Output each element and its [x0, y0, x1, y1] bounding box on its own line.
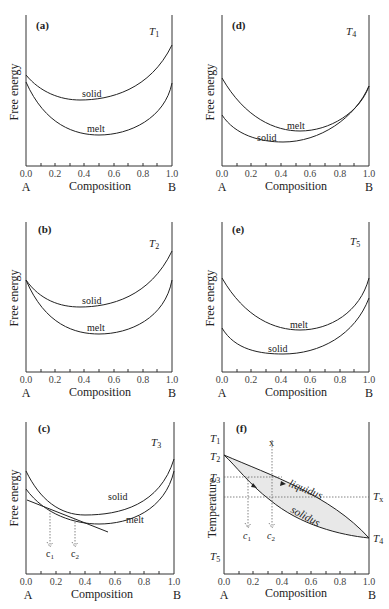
panel-label: (c): [38, 422, 51, 435]
svg-text:1.0: 1.0: [166, 374, 179, 385]
svg-text:0.0: 0.0: [20, 374, 33, 385]
svg-text:0.8: 0.8: [334, 168, 347, 179]
panel-label: (d): [232, 19, 246, 32]
x-axis-label: Composition: [69, 179, 131, 193]
svg-text:0.4: 0.4: [79, 576, 92, 587]
svg-text:B: B: [365, 386, 373, 400]
temperature-label: T5: [350, 235, 360, 249]
svg-text:0.2: 0.2: [50, 576, 63, 587]
svg-text:0.2: 0.2: [245, 374, 258, 385]
common-tangent-line: [27, 500, 108, 532]
svg-text:0.2: 0.2: [247, 576, 260, 587]
melt-label: melt: [126, 514, 144, 525]
svg-text:B: B: [168, 180, 176, 194]
melt-label: melt: [290, 319, 308, 330]
svg-text:0.4: 0.4: [275, 168, 288, 179]
svg-text:1.0: 1.0: [363, 576, 376, 587]
figure: (a) T1 solid melt Free energy 0.00.20.40…: [0, 0, 389, 609]
svg-text:0.2: 0.2: [245, 168, 258, 179]
solid-label: solid: [257, 132, 276, 143]
c1-marker: c1: [243, 530, 251, 543]
x-marker: x: [269, 437, 274, 448]
svg-text:0.0: 0.0: [218, 576, 231, 587]
svg-text:0.2: 0.2: [49, 374, 62, 385]
panel-label: (f): [236, 422, 247, 435]
x-axis-label: Composition: [71, 587, 133, 601]
svg-text:A: A: [24, 588, 33, 602]
svg-text:B: B: [168, 386, 176, 400]
x-axis-label: Composition: [69, 385, 131, 399]
svg-text:B: B: [173, 588, 181, 602]
two-phase-region: [224, 455, 369, 538]
solid-label: solid: [268, 343, 287, 354]
solid-label: solid: [82, 295, 101, 306]
svg-text:A: A: [22, 180, 31, 194]
svg-text:0.8: 0.8: [138, 576, 151, 587]
solid-curve: [222, 86, 369, 142]
t4-label: T4: [373, 532, 383, 546]
svg-text:0.6: 0.6: [304, 168, 317, 179]
svg-text:A: A: [218, 180, 227, 194]
svg-text:1.0: 1.0: [363, 374, 376, 385]
solid-label: solid: [108, 491, 127, 502]
svg-text:0.0: 0.0: [20, 576, 33, 587]
melt-label: melt: [87, 123, 105, 134]
svg-text:0.6: 0.6: [304, 374, 317, 385]
y-axis-label: Free energy: [203, 270, 217, 327]
panel-d: (d) T4 melt solid Free energy 0.00.20.40…: [203, 15, 375, 194]
panel-label: (e): [232, 223, 245, 236]
svg-text:0.4: 0.4: [275, 374, 288, 385]
svg-text:B: B: [365, 180, 373, 194]
x-axis-label: Composition: [265, 385, 327, 399]
panel-a: (a) T1 solid melt Free energy 0.00.20.40…: [7, 15, 178, 194]
temperature-label: T1: [149, 25, 159, 39]
svg-text:0.8: 0.8: [137, 168, 150, 179]
temperature-label: T4: [346, 25, 356, 39]
x-axis-label: Composition: [265, 586, 327, 600]
temperature-label: T2: [149, 237, 159, 251]
svg-text:0.4: 0.4: [78, 168, 91, 179]
svg-text:0.6: 0.6: [108, 168, 121, 179]
svg-text:0.2: 0.2: [49, 168, 62, 179]
solid-label: solid: [82, 88, 101, 99]
t2-label: T2: [210, 450, 220, 464]
melt-label: melt: [87, 322, 105, 333]
melt-label: melt: [287, 120, 305, 131]
melt-curve: [26, 471, 174, 524]
svg-text:0.8: 0.8: [137, 374, 150, 385]
tx-label: Tx: [373, 490, 383, 504]
svg-text:0.6: 0.6: [109, 576, 122, 587]
t1-label: T1: [210, 432, 220, 446]
c2-marker: c2: [71, 548, 79, 561]
c2-marker: c2: [267, 530, 275, 543]
svg-text:0.0: 0.0: [20, 168, 33, 179]
panel-f: (f) x liquidus solidus c1 c2 T1 T2 T3 T5…: [205, 422, 383, 602]
svg-text:A: A: [22, 386, 31, 400]
y-axis-label: Free energy: [7, 470, 21, 527]
y-axis-label: Free energy: [7, 270, 21, 327]
panel-label: (a): [36, 19, 49, 32]
panel-b: (b) T2 solid melt Free energy 0.00.20.40…: [7, 222, 178, 400]
temperature-label: T3: [151, 436, 161, 450]
y-axis-label: Free energy: [7, 64, 21, 121]
panel-e: (e) T5 melt solid Free energy 0.00.20.40…: [203, 222, 375, 400]
svg-text:0.6: 0.6: [108, 374, 121, 385]
svg-text:A: A: [218, 386, 227, 400]
panel-label: (b): [38, 223, 52, 236]
c1-marker: c1: [46, 548, 54, 561]
t5-label: T5: [210, 550, 220, 564]
y-axis-label: Temperature: [205, 478, 219, 538]
panel-c: (c) T3 solid melt c1 c2 Free energy 0.00…: [7, 422, 181, 602]
svg-text:0.0: 0.0: [216, 374, 229, 385]
svg-text:0.8: 0.8: [334, 374, 347, 385]
svg-text:1.0: 1.0: [166, 168, 179, 179]
x-axis-label: Composition: [265, 179, 327, 193]
svg-text:0.8: 0.8: [334, 576, 347, 587]
svg-text:1.0: 1.0: [363, 168, 376, 179]
svg-text:1.0: 1.0: [168, 576, 181, 587]
svg-text:0.4: 0.4: [78, 374, 91, 385]
svg-text:A: A: [220, 588, 229, 602]
svg-text:B: B: [368, 588, 376, 602]
svg-text:0.0: 0.0: [216, 168, 229, 179]
y-axis-label: Free energy: [203, 64, 217, 121]
